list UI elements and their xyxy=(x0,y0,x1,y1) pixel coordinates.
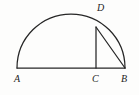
vertex-label-a: A xyxy=(14,74,20,84)
geometry-figure: A C B D xyxy=(0,0,139,95)
vertex-label-b: B xyxy=(121,74,127,84)
vertex-label-d: D xyxy=(97,3,104,13)
vertex-label-c: C xyxy=(92,74,99,84)
semicircle-arc xyxy=(17,14,125,68)
geometry-canvas xyxy=(0,0,139,95)
